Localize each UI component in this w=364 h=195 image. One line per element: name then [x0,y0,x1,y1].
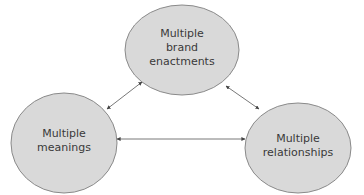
label-line: Multiple [263,132,333,146]
label-line: brand [149,41,214,55]
label-line: Multiple [37,127,91,141]
edge-meanings-brand [107,82,142,109]
label-line: meanings [37,141,91,155]
label-line: relationships [263,146,333,160]
edge-brand-relationships [226,86,259,109]
label-brand-enactments: Multiple brand enactments [149,27,214,69]
label-line: Multiple [149,27,214,41]
label-line: enactments [149,55,214,69]
label-multiple-meanings: Multiple meanings [37,127,91,155]
label-multiple-relationships: Multiple relationships [263,132,333,160]
